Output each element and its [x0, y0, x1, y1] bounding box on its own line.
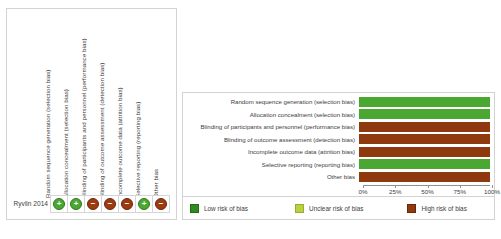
axis-tick-label: 75% — [454, 188, 466, 195]
legend-label: Low risk of bias — [204, 205, 248, 212]
risk-of-bias-summary-panel: Random sequence generation (selection bi… — [6, 8, 177, 220]
summary-study-row: Ryvlin 2014 ++−−−+− — [7, 194, 176, 213]
bar-segment — [359, 109, 490, 119]
domain-label-vertical: Incomplete outcome data (attrition bias) — [116, 13, 123, 198]
domain-labels-vertical: Random sequence generation (selection bi… — [51, 13, 177, 198]
legend-swatch-high-icon — [407, 204, 416, 213]
bar-row: Random sequence generation (selection bi… — [183, 96, 490, 107]
judgement-high-icon: − — [155, 198, 167, 210]
bar-row-label: Incomplete outcome data (attrition bias) — [183, 148, 359, 155]
axis-tick-label: 50% — [421, 188, 433, 195]
bar-track — [359, 97, 490, 107]
bar-row-label: Blinding of participants and personnel (… — [183, 123, 359, 130]
axis-tick-label: 0% — [359, 188, 368, 195]
legend-item-low: Low risk of bias — [190, 204, 248, 213]
bar-row: Selective reporting (reporting bias) — [183, 159, 490, 170]
bar-track — [359, 122, 490, 132]
figure-caption-strip — [0, 230, 501, 239]
judgement-cell: − — [152, 195, 170, 213]
bar-track — [359, 134, 490, 144]
judgement-high-icon: − — [104, 198, 116, 210]
bar-row: Other bias — [183, 171, 490, 182]
bar-track — [359, 147, 490, 157]
risk-of-bias-graph-panel: Random sequence generation (selection bi… — [182, 92, 495, 220]
domain-label-vertical: Allocation concealment (selection bias) — [62, 13, 69, 198]
bar-track — [359, 159, 490, 169]
study-label: Ryvlin 2014 — [7, 200, 51, 207]
bar-row-label: Random sequence generation (selection bi… — [183, 98, 359, 105]
judgement-cell: + — [135, 195, 153, 213]
judgement-high-icon: − — [121, 198, 133, 210]
judgement-cell: + — [50, 195, 68, 213]
legend: Low risk of biasUnclear risk of biasHigh… — [183, 196, 494, 219]
bar-row-label: Blinding of outcome assessment (detectio… — [183, 136, 359, 143]
summary-grid: Random sequence generation (selection bi… — [7, 9, 176, 219]
domain-label-vertical: Other bias — [152, 13, 159, 198]
bar-row: Incomplete outcome data (attrition bias) — [183, 146, 490, 157]
bar-track — [359, 172, 490, 182]
judgement-low-icon: + — [70, 198, 82, 210]
judgement-cell: − — [118, 195, 136, 213]
stacked-bar-plot: Random sequence generation (selection bi… — [183, 96, 490, 184]
legend-label: Unclear risk of bias — [309, 205, 363, 212]
judgement-high-icon: − — [87, 198, 99, 210]
judgement-cell: − — [84, 195, 102, 213]
legend-item-unclear: Unclear risk of bias — [295, 204, 363, 213]
bar-row: Blinding of outcome assessment (detectio… — [183, 134, 490, 145]
judgement-low-icon: + — [138, 198, 150, 210]
legend-item-high: High risk of bias — [407, 204, 466, 213]
bar-track — [359, 109, 490, 119]
judgement-low-icon: + — [53, 198, 65, 210]
bar-segment — [359, 97, 490, 107]
domain-label-vertical: Blinding of outcome assessment (detectio… — [98, 13, 105, 198]
domain-label-vertical: Selective reporting (reporting bias) — [134, 13, 141, 198]
judgement-cell: + — [67, 195, 85, 213]
legend-label: High risk of bias — [421, 205, 466, 212]
bar-row-label: Allocation concealment (selection bias) — [183, 111, 359, 118]
bar-segment — [359, 134, 490, 144]
legend-swatch-low-icon — [190, 204, 199, 213]
bar-row-label: Other bias — [183, 173, 359, 180]
axis-tick-label: 25% — [389, 188, 401, 195]
axis-tick-label: 100% — [484, 188, 500, 195]
judgement-cells: ++−−−+− — [51, 195, 170, 213]
domain-label-vertical: Random sequence generation (selection bi… — [44, 13, 51, 198]
bar-segment — [359, 172, 490, 182]
bar-row: Blinding of participants and personnel (… — [183, 121, 490, 132]
legend-swatch-unclear-icon — [295, 204, 304, 213]
bar-row: Allocation concealment (selection bias) — [183, 109, 490, 120]
bar-segment — [359, 147, 490, 157]
judgement-cell: − — [101, 195, 119, 213]
domain-label-vertical: Blinding of participants and personnel (… — [80, 13, 87, 198]
bar-row-label: Selective reporting (reporting bias) — [183, 161, 359, 168]
bar-segment — [359, 122, 490, 132]
bar-segment — [359, 159, 490, 169]
axis-line — [363, 185, 490, 186]
